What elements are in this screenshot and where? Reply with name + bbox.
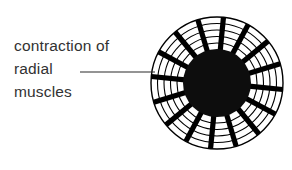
pupil-disc xyxy=(183,49,251,117)
radial-muscle-spoke xyxy=(220,17,223,51)
annotation-line-1: contraction of xyxy=(14,37,110,54)
figure-canvas: contraction of radial muscles xyxy=(0,0,292,170)
annotation-line-3: muscles xyxy=(14,83,72,100)
radial-muscle-spoke xyxy=(151,77,185,80)
radial-muscle-spoke xyxy=(211,115,214,149)
iris-radial-muscle-figure: contraction of radial muscles xyxy=(0,0,292,170)
annotation-line-2: radial xyxy=(14,60,53,77)
radial-muscle-spoke xyxy=(249,86,283,89)
